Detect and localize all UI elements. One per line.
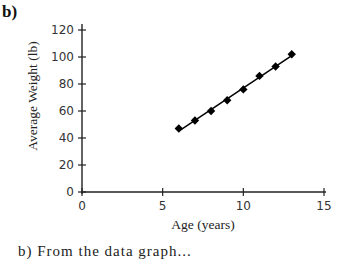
- y-tick-label: 0: [66, 185, 74, 199]
- y-tick-label: 80: [59, 77, 74, 91]
- y-tick-label: 100: [51, 50, 74, 64]
- y-tick-label: 40: [59, 131, 74, 145]
- ticks: [78, 30, 324, 196]
- x-axis-title: Age (years): [171, 217, 234, 232]
- x-tick-label: 10: [236, 199, 251, 213]
- caption-fragment: b) From the data graph...: [18, 243, 192, 260]
- panel-label: b): [2, 2, 17, 21]
- x-tick-label: 0: [78, 199, 86, 213]
- x-tick-label: 5: [159, 199, 167, 213]
- tick-labels: 020406080100120051015: [51, 23, 332, 213]
- y-axis-title: Average Weight (lb): [25, 41, 40, 150]
- x-tick-label: 15: [316, 199, 331, 213]
- axes: [82, 24, 326, 194]
- data-point: [175, 124, 183, 132]
- y-tick-label: 20: [59, 158, 74, 172]
- y-tick-label: 120: [51, 23, 74, 37]
- y-tick-label: 60: [59, 104, 74, 118]
- series-layer: [175, 50, 296, 133]
